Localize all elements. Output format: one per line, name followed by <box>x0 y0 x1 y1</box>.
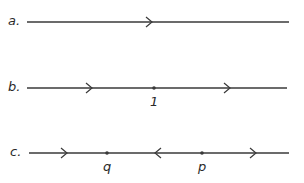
label-b: b. <box>8 80 20 93</box>
diagram-canvas <box>0 0 304 183</box>
point-label-q: q <box>103 160 111 173</box>
point-label-1: 1 <box>150 95 158 108</box>
phase-line-diagrams: a. b. c. 1 q p <box>0 0 304 183</box>
equilibrium-point <box>152 86 156 90</box>
phase-line-c <box>29 148 289 158</box>
label-c: c. <box>10 145 21 158</box>
point-label-p: p <box>198 160 206 173</box>
label-a: a. <box>8 14 20 27</box>
equilibrium-point <box>105 151 109 155</box>
phase-line-b <box>27 83 287 93</box>
phase-line-a <box>27 17 289 27</box>
equilibrium-point <box>200 151 204 155</box>
